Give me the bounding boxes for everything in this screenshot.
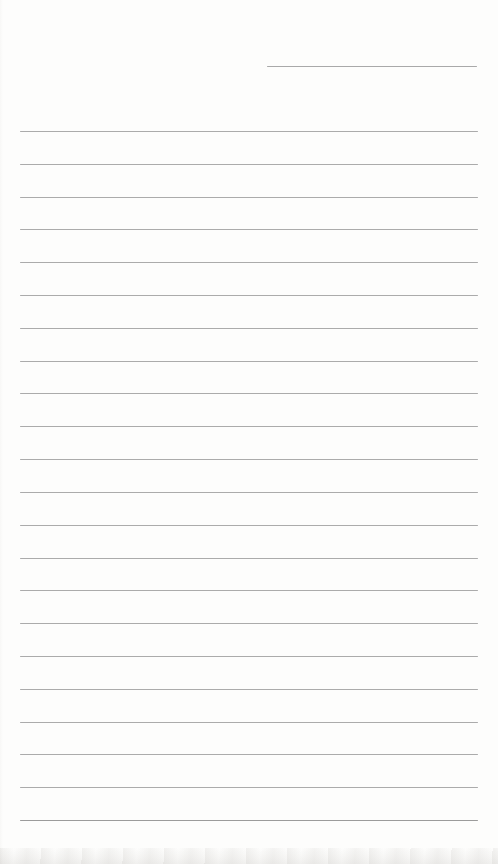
ruled-line — [20, 295, 478, 296]
left-paper-edge — [0, 0, 3, 864]
ruled-line — [20, 262, 478, 263]
ruled-line — [20, 525, 478, 526]
ruled-line — [20, 459, 478, 460]
ruled-line — [20, 722, 478, 723]
ruled-line — [20, 623, 478, 624]
ruled-line — [20, 689, 478, 690]
ruled-line — [20, 558, 478, 559]
ruled-line — [20, 393, 478, 394]
ruled-line — [20, 197, 478, 198]
ruled-line — [20, 229, 478, 230]
ruled-line — [20, 590, 478, 591]
ruled-line — [20, 787, 478, 788]
ruled-line — [20, 328, 478, 329]
ruled-line — [20, 656, 478, 657]
bottom-paper-edge-shadow — [0, 848, 498, 864]
ruled-line — [20, 164, 478, 165]
ruled-line — [20, 820, 478, 821]
header-date-line — [267, 66, 477, 67]
ruled-line — [20, 492, 478, 493]
ruled-line — [20, 361, 478, 362]
ruled-line — [20, 754, 478, 755]
ruled-line — [20, 426, 478, 427]
ruled-line — [20, 131, 478, 132]
notebook-page — [0, 0, 498, 864]
